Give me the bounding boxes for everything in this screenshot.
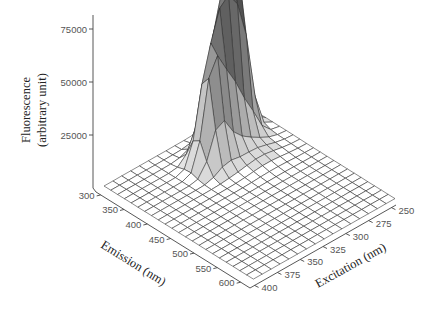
z-tick-label: 50000 [61,77,87,88]
emission-tick-mark [97,195,101,196]
emission-tick-label: 550 [195,263,211,274]
excitation-tick-mark [255,285,259,287]
excitation-axis-title: Excitation (nm) [313,240,389,290]
emission-tick-label: 350 [102,204,118,215]
surface-mesh [104,0,395,279]
excitation-tick-label: 250 [398,205,414,216]
emission-tick-mark [167,239,171,240]
excitation-tick-label: 325 [330,244,346,255]
z-axis-ticks: 250005000075000 [61,24,93,141]
emission-tick-mark [213,268,217,269]
excitation-tick-label: 350 [307,256,323,267]
z-tick-label: 75000 [61,24,87,35]
emission-axis-title: Emission (nm) [98,238,168,289]
excitation-tick-label: 400 [262,282,278,293]
emission-tick-mark [143,224,147,225]
excitation-tick-mark [300,259,304,261]
z-axis-title-line1: Fluorescence [19,77,33,143]
emission-tick-label: 500 [172,248,188,259]
excitation-tick-label: 300 [353,231,369,242]
excitation-tick-mark [323,247,327,249]
emission-tick-label: 600 [219,277,235,288]
emission-tick-label: 400 [125,219,141,230]
excitation-tick-mark [346,234,350,236]
excitation-tick-mark [369,221,373,223]
excitation-tick-label: 375 [284,269,300,280]
emission-tick-mark [120,209,124,210]
excitation-tick-label: 275 [376,218,392,229]
z-tick-label: 25000 [61,130,87,141]
emission-tick-label: 450 [149,234,165,245]
excitation-tick-mark [277,272,281,274]
emission-tick-mark [237,282,241,283]
emission-tick-mark [190,253,194,254]
emission-tick-label: 300 [79,190,95,201]
fluorescence-surface-chart: 250005000075000 300350400450500550600 25… [0,0,436,309]
excitation-tick-mark [391,208,395,210]
z-axis-title-line2: (arbitrary unit) [35,73,49,147]
